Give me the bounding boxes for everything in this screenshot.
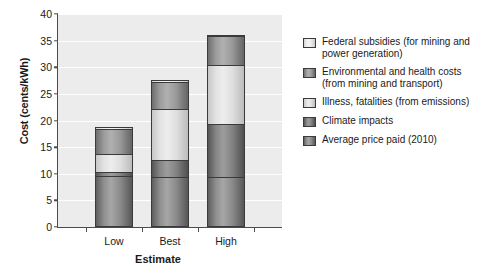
y-tick-label: 5	[18, 194, 58, 206]
legend-label: Federal subsidies (for mining and power …	[322, 36, 478, 59]
bar-segment[interactable]	[207, 35, 245, 36]
x-tick-mark	[254, 227, 255, 232]
legend-item[interactable]: Federal subsidies (for mining and power …	[303, 36, 478, 59]
bar-segment[interactable]	[151, 80, 189, 83]
chart-legend: Federal subsidies (for mining and power …	[303, 36, 478, 153]
legend-label: Climate impacts	[322, 115, 393, 127]
x-tick-mark	[198, 227, 199, 232]
bar-segment[interactable]	[95, 129, 133, 155]
legend-item[interactable]: Illness, fatalities (from emissions)	[303, 96, 478, 108]
y-tick-label: 25	[18, 88, 58, 100]
bar-segment[interactable]	[95, 176, 133, 227]
gridline	[58, 41, 282, 42]
legend-item[interactable]: Environmental and health costs (from min…	[303, 66, 478, 89]
x-tick-label: High	[191, 235, 261, 247]
legend-item[interactable]: Average price paid (2010)	[303, 134, 478, 146]
bar-segment[interactable]	[95, 172, 133, 177]
bar-segment[interactable]	[207, 177, 245, 227]
plot-area: 0510152025303540LowBestHigh	[57, 14, 282, 228]
legend-swatch	[303, 117, 316, 127]
bar-segment[interactable]	[151, 109, 189, 160]
legend-swatch	[303, 98, 316, 108]
y-tick-label: 20	[18, 115, 58, 127]
y-tick-label: 35	[18, 35, 58, 47]
bar-segment[interactable]	[207, 36, 245, 65]
y-tick-label: 10	[18, 168, 58, 180]
x-axis-title: Estimate	[35, 253, 281, 265]
legend-label: Environmental and health costs (from min…	[322, 66, 478, 89]
legend-item[interactable]: Climate impacts	[303, 115, 478, 127]
chart-figure: Cost (cents/kWh) 0510152025303540LowBest…	[0, 0, 480, 274]
y-tick-label: 0	[18, 221, 58, 233]
bar-best[interactable]	[151, 80, 189, 227]
y-tick-label: 40	[18, 8, 58, 20]
bar-segment[interactable]	[207, 65, 245, 124]
legend-swatch	[303, 136, 316, 146]
legend-label: Average price paid (2010)	[322, 134, 437, 146]
bar-high[interactable]	[207, 35, 245, 227]
legend-label: Illness, fatalities (from emissions)	[322, 96, 469, 108]
bar-segment[interactable]	[95, 127, 133, 128]
legend-swatch	[303, 38, 316, 48]
bar-segment[interactable]	[207, 124, 245, 178]
bar-segment[interactable]	[95, 154, 133, 172]
y-tick-label: 15	[18, 141, 58, 153]
x-tick-mark	[142, 227, 143, 232]
y-tick-label: 30	[18, 61, 58, 73]
bar-segment[interactable]	[151, 82, 189, 109]
bar-low[interactable]	[95, 127, 133, 227]
legend-swatch	[303, 68, 316, 78]
x-tick-mark	[86, 227, 87, 232]
gridline	[58, 67, 282, 68]
gridline	[58, 14, 282, 15]
bar-segment[interactable]	[151, 177, 189, 227]
bar-segment[interactable]	[151, 160, 189, 177]
